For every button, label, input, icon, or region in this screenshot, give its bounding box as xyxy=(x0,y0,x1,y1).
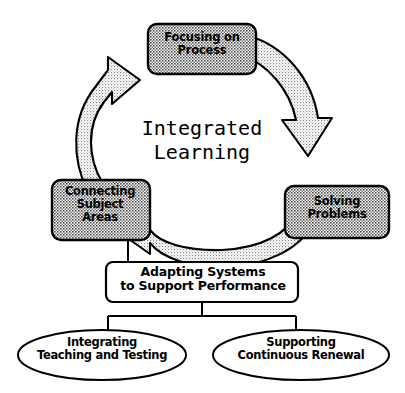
node-integrating-teaching-testing[interactable] xyxy=(18,330,186,380)
node-focusing-on-process[interactable] xyxy=(148,24,256,74)
connector-support-to-outcomes xyxy=(108,300,296,331)
arrow-left-up xyxy=(76,57,140,192)
diagram-canvas: Focusing on Process Solving Problems Con… xyxy=(0,0,405,393)
node-solving-problems[interactable] xyxy=(285,186,389,238)
node-supporting-continuous-renewal[interactable] xyxy=(213,330,389,380)
node-adapting-systems[interactable] xyxy=(106,262,298,302)
diagram-graphics xyxy=(0,0,405,393)
node-connecting-subject-areas[interactable] xyxy=(52,180,150,240)
